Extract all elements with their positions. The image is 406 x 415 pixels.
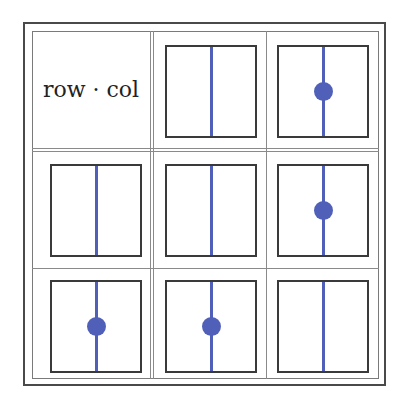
corner-label: row · col [32,31,150,148]
stem-line [210,47,213,136]
col-divider-1b [153,31,154,379]
col-divider-2 [266,31,267,379]
stem-line [210,166,213,255]
col-divider-1a [150,31,151,379]
dot-marker [314,201,333,220]
dot-marker [87,317,106,336]
cell-r2-c1 [165,280,257,373]
cell-r2-c0 [50,280,142,373]
cell-r2-c2 [277,280,369,373]
cell-r1-c1 [165,164,257,257]
dot-marker [314,82,333,101]
row-divider-2 [32,268,379,269]
stem-line [95,166,98,255]
cell-r0-c1 [165,45,257,138]
stem-line [322,282,325,371]
dot-marker [202,317,221,336]
row-divider-1b [32,151,379,152]
cell-r1-c2 [277,164,369,257]
row-divider-1a [32,148,379,149]
cell-r1-c0 [50,164,142,257]
cell-r0-c2 [277,45,369,138]
